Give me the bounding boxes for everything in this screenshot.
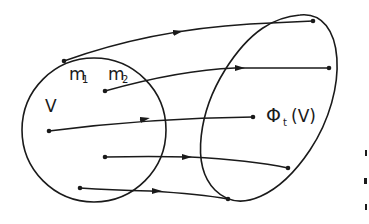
label-m1-sub: 1 xyxy=(82,74,88,85)
end-point xyxy=(327,66,332,71)
cropped-text-fragment xyxy=(365,204,367,210)
end-point xyxy=(226,197,231,202)
end-point xyxy=(251,115,256,120)
region-v-circle xyxy=(22,58,166,202)
flow-map-diagram: m 1 m 2 V Φ t (V) xyxy=(0,0,369,224)
end-point xyxy=(286,166,291,171)
trajectory-5 xyxy=(78,186,231,202)
start-point xyxy=(78,186,83,191)
trajectory-m2 xyxy=(103,66,332,94)
trajectory-3 xyxy=(47,115,256,134)
label-m2-sub: 2 xyxy=(122,74,128,85)
end-point xyxy=(311,19,316,24)
cropped-text-fragment xyxy=(364,178,367,184)
start-point xyxy=(47,129,52,134)
trajectory-m1 xyxy=(62,19,316,64)
cropped-text-fragment xyxy=(365,150,367,156)
label-phi-sub: t xyxy=(283,117,287,128)
label-phi: Φ xyxy=(266,104,281,126)
label-phi-arg: (V) xyxy=(291,106,316,126)
start-point xyxy=(103,89,108,94)
trajectory-4 xyxy=(103,155,291,171)
label-region-v: V xyxy=(45,96,57,116)
start-point xyxy=(103,155,108,160)
start-point xyxy=(62,59,67,64)
